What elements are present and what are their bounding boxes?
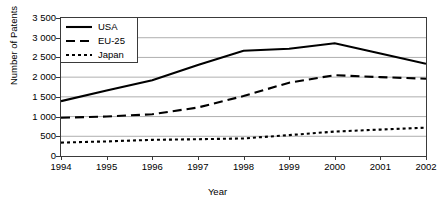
x-tick-label: 2000: [312, 162, 358, 172]
x-tick-mark: [244, 156, 245, 160]
y-tick-label: 1 500: [0, 92, 56, 102]
legend-swatch-solid-icon: [65, 22, 93, 32]
x-tick-label: 1994: [38, 162, 84, 172]
x-tick-mark: [380, 156, 381, 160]
legend-item-eu-25[interactable]: EU-25: [61, 34, 137, 48]
y-tick-label: 0: [0, 151, 56, 161]
x-tick-mark: [61, 156, 62, 160]
legend-label: USA: [93, 22, 118, 32]
y-tick-label: 2 000: [0, 72, 56, 82]
x-tick-mark: [152, 156, 153, 160]
legend-label: Japan: [93, 50, 124, 60]
y-tick-mark: [56, 136, 60, 137]
y-tick-label: 2 500: [0, 52, 56, 62]
y-tick-mark: [56, 117, 60, 118]
x-tick-mark: [426, 156, 427, 160]
legend-swatch-dashed-icon: [65, 36, 93, 46]
x-tick-label: 1999: [266, 162, 312, 172]
x-tick-label: 1997: [175, 162, 221, 172]
y-tick-mark: [56, 156, 60, 157]
x-tick-mark: [198, 156, 199, 160]
x-tick-label: 1995: [84, 162, 130, 172]
legend-label: EU-25: [93, 36, 125, 46]
y-tick-label: 1 000: [0, 112, 56, 122]
legend-swatch-dotted-icon: [65, 50, 93, 60]
x-axis-title: Year: [0, 186, 435, 197]
x-tick-label: 2001: [357, 162, 403, 172]
legend-item-usa[interactable]: USA: [61, 20, 137, 34]
x-tick-label: 2002: [403, 162, 441, 172]
y-tick-mark: [56, 97, 60, 98]
x-tick-mark: [107, 156, 108, 160]
y-tick-label: 3 500: [0, 13, 56, 23]
series-line-japan: [61, 128, 426, 143]
x-tick-mark: [289, 156, 290, 160]
x-tick-mark: [335, 156, 336, 160]
x-tick-label: 1998: [221, 162, 267, 172]
chart-legend: USAEU-25Japan: [60, 17, 138, 63]
y-tick-mark: [56, 77, 60, 78]
legend-item-japan[interactable]: Japan: [61, 48, 137, 62]
y-tick-label: 500: [0, 131, 56, 141]
x-tick-label: 1996: [129, 162, 175, 172]
chart-title: [0, 0, 435, 2]
y-tick-label: 3 000: [0, 33, 56, 43]
